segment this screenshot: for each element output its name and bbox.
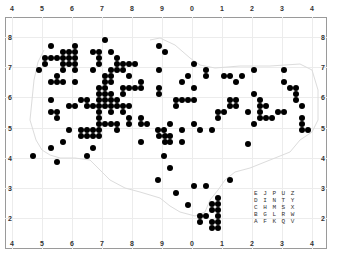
y-tick-left: 3: [8, 185, 12, 192]
record-dot: [60, 67, 66, 73]
x-tick-bottom: 5: [40, 240, 44, 247]
record-dot: [120, 67, 126, 73]
record-dot: [72, 103, 78, 109]
record-dot: [48, 145, 54, 151]
record-dot: [221, 109, 227, 115]
legend-row: C H M S X: [254, 204, 296, 211]
record-dot: [233, 103, 239, 109]
record-dot: [173, 190, 179, 196]
record-dot: [114, 127, 120, 133]
y-tick-left: 4: [8, 155, 12, 162]
record-dot: [191, 121, 197, 127]
y-tick-left: 5: [8, 125, 12, 132]
x-tick-bottom: 9: [160, 240, 164, 247]
record-dot: [132, 61, 138, 67]
x-tick-bottom: 7: [100, 240, 104, 247]
record-dot: [251, 121, 257, 127]
record-dot: [84, 153, 90, 159]
record-dot: [96, 61, 102, 67]
record-dot: [245, 109, 251, 115]
x-tick-bottom: 3: [280, 240, 284, 247]
x-tick-bottom: 4: [10, 240, 14, 247]
x-tick-top: 1: [220, 5, 224, 12]
x-tick-bottom: 2: [250, 240, 254, 247]
y-tick-right: 5: [321, 125, 325, 132]
y-tick-left: 2: [8, 215, 12, 222]
legend-row: B G L R W: [254, 211, 296, 218]
y-tick-left: 6: [8, 94, 12, 101]
record-dot: [251, 91, 257, 97]
record-dot: [167, 139, 173, 145]
x-tick-bottom: 4: [310, 240, 314, 247]
record-dot: [126, 121, 132, 127]
legend-row: D I N T Y: [254, 197, 296, 204]
record-dot: [156, 91, 162, 97]
record-dot: [162, 49, 168, 55]
record-dot: [269, 115, 275, 121]
record-dot: [156, 67, 162, 73]
record-dot: [227, 73, 233, 79]
record-dot: [227, 177, 233, 183]
y-tick-right: 2: [321, 215, 325, 222]
record-dot: [209, 127, 215, 133]
record-dot: [179, 79, 185, 85]
record-dot: [245, 141, 251, 147]
y-tick-left: 8: [8, 34, 12, 41]
x-tick-top: 5: [40, 5, 44, 12]
record-dot: [215, 115, 221, 121]
record-dot: [281, 79, 287, 85]
record-dot: [126, 103, 132, 109]
x-tick-top: 4: [10, 5, 14, 12]
record-dot: [144, 121, 150, 127]
record-dot: [156, 43, 162, 49]
record-dot: [72, 79, 78, 85]
x-tick-top: 6: [70, 5, 74, 12]
x-tick-bottom: 0: [190, 240, 194, 247]
record-dot: [305, 127, 311, 133]
x-tick-bottom: 1: [220, 240, 224, 247]
record-dot: [203, 183, 209, 189]
record-dot: [215, 225, 221, 231]
legend-row: A F K Q V: [254, 218, 296, 225]
record-dot: [281, 109, 287, 115]
record-dot: [120, 91, 126, 97]
record-dot: [108, 109, 114, 115]
record-dot: [138, 85, 144, 91]
record-dot: [191, 183, 197, 189]
x-tick-top: 9: [160, 5, 164, 12]
record-dot: [54, 159, 60, 165]
record-dot: [179, 139, 185, 145]
record-dot: [173, 103, 179, 109]
record-dot: [60, 139, 66, 145]
y-tick-right: 6: [321, 94, 325, 101]
record-dot: [96, 133, 102, 139]
record-dot: [203, 213, 209, 219]
x-tick-bottom: 6: [70, 240, 74, 247]
record-dot: [120, 109, 126, 115]
record-dot: [90, 67, 96, 73]
record-dot: [30, 153, 36, 159]
y-tick-right: 7: [321, 64, 325, 71]
x-tick-top: 8: [130, 5, 134, 12]
tetrad-letter-legend: E J P U Z D I N T Y C H M S X B G L R W …: [254, 190, 296, 225]
record-dot: [108, 49, 114, 55]
x-tick-top: 0: [190, 5, 194, 12]
record-dot: [48, 43, 54, 49]
y-tick-left: 7: [8, 64, 12, 71]
record-dot: [167, 121, 173, 127]
record-dot: [102, 37, 108, 43]
record-dot: [179, 127, 185, 133]
x-tick-top: 4: [310, 5, 314, 12]
record-dot: [191, 97, 197, 103]
record-dot: [54, 115, 60, 121]
record-dot: [233, 79, 239, 85]
record-dot: [167, 165, 173, 171]
record-dot: [42, 61, 48, 67]
record-dot: [281, 67, 287, 73]
record-dot: [72, 67, 78, 73]
y-tick-right: 3: [321, 185, 325, 192]
record-dot: [251, 67, 257, 73]
x-tick-top: 2: [250, 5, 254, 12]
record-dot: [126, 73, 132, 79]
record-dot: [161, 153, 167, 159]
